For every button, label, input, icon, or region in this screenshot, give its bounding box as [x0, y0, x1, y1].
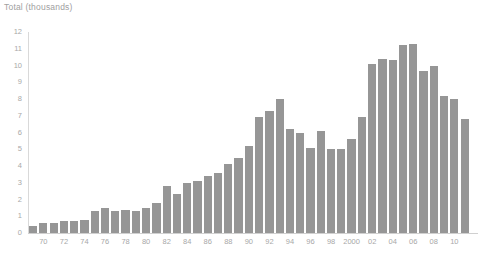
x-tick-label: 80 — [142, 238, 150, 246]
x-tick-label: 92 — [265, 238, 273, 246]
y-axis-tick-labels: 0123456789101112 — [0, 32, 26, 233]
bar — [286, 129, 294, 233]
x-tick-label: 86 — [204, 238, 212, 246]
bar — [461, 119, 469, 233]
bar — [276, 99, 284, 233]
bar — [337, 149, 345, 233]
bar-chart: Total (thousands) 0123456789101112 70727… — [0, 0, 489, 265]
bar — [91, 211, 99, 233]
x-tick-label: 84 — [183, 238, 191, 246]
y-tick-label: 7 — [18, 112, 22, 120]
bar — [378, 59, 386, 233]
x-tick-label: 78 — [121, 238, 129, 246]
y-tick-label: 6 — [18, 129, 22, 137]
plot-area — [28, 32, 478, 233]
bar — [317, 131, 325, 233]
bar — [347, 139, 355, 233]
y-tick-label: 11 — [14, 45, 22, 53]
chart-title: Total (thousands) — [4, 2, 73, 12]
bar — [70, 221, 78, 233]
bar — [409, 44, 417, 233]
bar — [204, 176, 212, 233]
bars-layer — [28, 32, 478, 233]
bar — [152, 203, 160, 233]
x-axis-tick-labels: 7072747678808284868890929496982000020406… — [28, 238, 484, 252]
x-tick-label: 10 — [450, 238, 458, 246]
x-axis-line — [28, 233, 478, 234]
x-tick-label: 94 — [286, 238, 294, 246]
bar — [265, 111, 273, 233]
bar — [50, 223, 58, 233]
bar — [29, 226, 37, 233]
y-tick-label: 1 — [18, 212, 22, 220]
bar — [111, 211, 119, 233]
x-tick-label: 06 — [409, 238, 417, 246]
bar — [80, 220, 88, 233]
bar — [39, 223, 47, 233]
bar — [132, 211, 140, 233]
bar — [121, 210, 129, 233]
bar — [255, 117, 263, 233]
y-tick-label: 10 — [14, 62, 22, 70]
bar — [327, 149, 335, 233]
y-tick-label: 3 — [18, 179, 22, 187]
bar — [399, 45, 407, 233]
y-tick-label: 12 — [14, 28, 22, 36]
y-tick-label: 5 — [18, 145, 22, 153]
bar — [389, 60, 397, 233]
bar — [214, 173, 222, 233]
bar — [173, 194, 181, 233]
x-tick-label: 90 — [245, 238, 253, 246]
x-tick-label: 08 — [430, 238, 438, 246]
x-tick-label: 74 — [80, 238, 88, 246]
bar — [368, 64, 376, 233]
bar — [60, 221, 68, 233]
x-tick-label: 02 — [368, 238, 376, 246]
x-tick-label: 70 — [39, 238, 47, 246]
bar — [224, 164, 232, 233]
bar — [101, 208, 109, 233]
x-tick-label: 04 — [389, 238, 397, 246]
x-tick-label: 96 — [306, 238, 314, 246]
bar — [296, 133, 304, 234]
y-tick-label: 2 — [18, 196, 22, 204]
bar — [142, 208, 150, 233]
bar — [163, 186, 171, 233]
x-tick-label: 98 — [327, 238, 335, 246]
bar — [234, 158, 242, 233]
bar — [245, 146, 253, 233]
bar — [183, 183, 191, 233]
x-tick-label: 82 — [162, 238, 170, 246]
x-tick-label: 2000 — [343, 238, 360, 246]
bar — [306, 148, 314, 233]
x-tick-label: 88 — [224, 238, 232, 246]
y-tick-label: 8 — [18, 95, 22, 103]
y-tick-label: 9 — [18, 78, 22, 86]
y-tick-label: 4 — [18, 162, 22, 170]
x-tick-label: 76 — [101, 238, 109, 246]
bar — [440, 96, 448, 233]
bar — [358, 117, 366, 233]
bar — [193, 181, 201, 233]
bar — [419, 71, 427, 233]
bar — [430, 66, 438, 234]
x-tick-label: 72 — [60, 238, 68, 246]
y-tick-label: 0 — [18, 229, 22, 237]
bar — [450, 99, 458, 233]
